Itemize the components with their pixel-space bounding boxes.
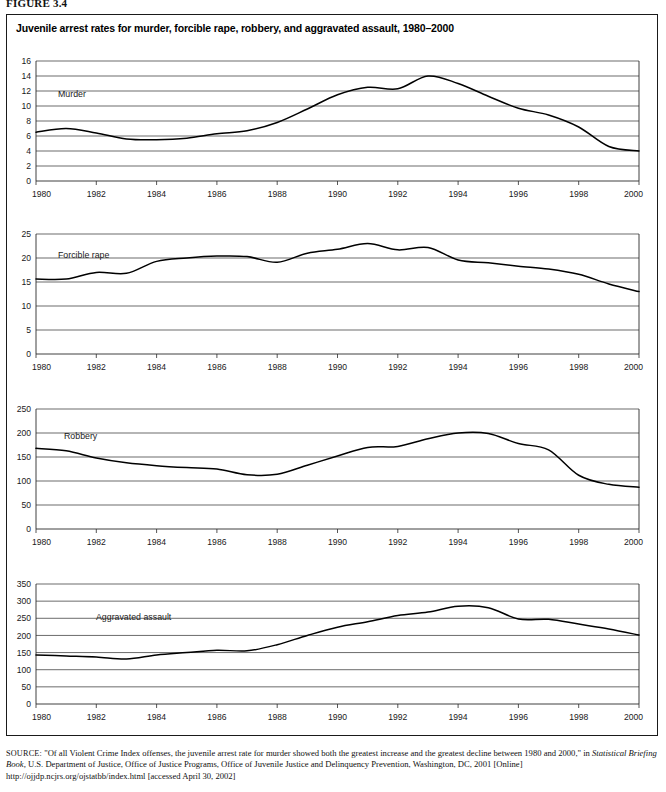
- figure-title: Juvenile arrest rates for murder, forcib…: [16, 22, 454, 34]
- x-tick-label-1980: 1980: [32, 537, 51, 547]
- y-tick-label-300: 300: [17, 596, 32, 606]
- x-tick-label-1994: 1994: [449, 537, 468, 547]
- y-tick-label-4: 4: [26, 146, 31, 156]
- x-tick-label-1980: 1980: [32, 712, 51, 722]
- y-tick-label-0: 0: [26, 524, 31, 534]
- y-tick-label-250: 250: [17, 613, 32, 623]
- source-line-2-post: U.S. Department of Justice, Office of Ju…: [26, 759, 411, 769]
- y-tick-label-150: 150: [17, 452, 32, 462]
- x-tick-label-1986: 1986: [207, 189, 226, 199]
- y-tick-label-10: 10: [21, 301, 31, 311]
- y-tick-label-0: 0: [26, 176, 31, 186]
- x-tick-label-2000: 2000: [624, 537, 643, 547]
- y-tick-label-10: 10: [21, 101, 31, 111]
- x-tick-label-2000: 2000: [624, 712, 643, 722]
- x-tick-label-1994: 1994: [449, 362, 468, 372]
- y-tick-label-5: 5: [26, 325, 31, 335]
- chart-forcible-rape: 0510152025198019821984198619881990199219…: [0, 228, 652, 386]
- x-tick-label-1998: 1998: [569, 712, 588, 722]
- source-line-2-pre: and 2000," in: [544, 748, 592, 758]
- grid-lines: [36, 409, 639, 529]
- chart-murder: 0246810121416198019821984198619881990199…: [0, 55, 652, 213]
- x-tick-label-1986: 1986: [207, 537, 226, 547]
- y-tick-label-250: 250: [17, 404, 32, 414]
- x-tick-label-1986: 1986: [207, 712, 226, 722]
- x-tick-label-1992: 1992: [388, 537, 407, 547]
- y-tick-label-0: 0: [26, 349, 31, 359]
- series-label-aggravated-assault: Aggravated assault: [96, 612, 172, 622]
- x-tick-label-1998: 1998: [569, 537, 588, 547]
- y-tick-label-14: 14: [21, 71, 31, 81]
- x-tick-label-2000: 2000: [624, 189, 643, 199]
- y-tick-label-16: 16: [21, 56, 31, 66]
- x-tick-label-1990: 1990: [328, 712, 347, 722]
- x-tick-label-2000: 2000: [624, 362, 643, 372]
- figure-number-label: FIGURE 3.4: [6, 0, 67, 9]
- x-tick-label-1988: 1988: [268, 189, 287, 199]
- x-tick-label-1994: 1994: [449, 712, 468, 722]
- y-tick-label-8: 8: [26, 116, 31, 126]
- x-tick-label-1988: 1988: [268, 362, 287, 372]
- x-tick-label-1982: 1982: [87, 712, 106, 722]
- x-tick-label-1994: 1994: [449, 189, 468, 199]
- x-tick-label-1984: 1984: [147, 712, 166, 722]
- data-line-murder: [36, 76, 639, 151]
- figure-page: FIGURE 3.4 Juvenile arrest rates for mur…: [0, 0, 666, 792]
- x-tick-label-1990: 1990: [328, 537, 347, 547]
- source-label: SOURCE:: [6, 749, 42, 758]
- x-tick-label-1980: 1980: [32, 362, 51, 372]
- chart-robbery: 0501001502002501980198219841986198819901…: [0, 403, 652, 561]
- x-tick-label-1992: 1992: [388, 712, 407, 722]
- x-tick-label-1982: 1982: [87, 362, 106, 372]
- x-tick-label-1988: 1988: [268, 537, 287, 547]
- x-tick-label-1982: 1982: [87, 537, 106, 547]
- y-tick-label-200: 200: [17, 428, 32, 438]
- chart-aggravated-assault: 0501001502002503003501980198219841986198…: [0, 578, 652, 736]
- x-tick-label-1992: 1992: [388, 362, 407, 372]
- x-tick-label-1982: 1982: [87, 189, 106, 199]
- y-tick-label-150: 150: [17, 648, 32, 658]
- y-tick-label-0: 0: [26, 699, 31, 709]
- series-label-forcible-rape: Forcible rape: [58, 250, 109, 260]
- data-line-robbery: [36, 432, 639, 487]
- chart-panel-aggravated-assault: 0501001502002503003501980198219841986198…: [0, 578, 652, 736]
- x-tick-label-1998: 1998: [569, 362, 588, 372]
- y-tick-label-50: 50: [21, 682, 31, 692]
- x-tick-label-1998: 1998: [569, 189, 588, 199]
- grid-lines: [36, 234, 639, 354]
- x-tick-label-1988: 1988: [268, 712, 287, 722]
- y-tick-label-25: 25: [21, 229, 31, 239]
- y-tick-label-20: 20: [21, 253, 31, 263]
- x-tick-label-1996: 1996: [509, 712, 528, 722]
- source-note: SOURCE: "Of all Violent Crime Index offe…: [6, 748, 658, 782]
- x-tick-label-1984: 1984: [147, 362, 166, 372]
- source-line-1: "Of all Violent Crime Index offenses, th…: [44, 748, 541, 758]
- x-tick-label-1984: 1984: [147, 189, 166, 199]
- x-tick-label-1996: 1996: [509, 189, 528, 199]
- y-tick-label-2: 2: [26, 161, 31, 171]
- y-tick-label-100: 100: [17, 665, 32, 675]
- x-tick-label-1996: 1996: [509, 537, 528, 547]
- x-tick-label-1992: 1992: [388, 189, 407, 199]
- x-tick-label-1980: 1980: [32, 189, 51, 199]
- y-tick-label-6: 6: [26, 131, 31, 141]
- x-tick-label-1986: 1986: [207, 362, 226, 372]
- data-line-forcible-rape: [36, 244, 639, 292]
- chart-panel-forcible-rape: 0510152025198019821984198619881990199219…: [0, 228, 652, 386]
- x-tick-label-1990: 1990: [328, 362, 347, 372]
- x-tick-label-1996: 1996: [509, 362, 528, 372]
- y-tick-label-15: 15: [21, 277, 31, 287]
- y-tick-label-200: 200: [17, 631, 32, 641]
- grid-lines: [36, 584, 639, 704]
- x-tick-label-1990: 1990: [328, 189, 347, 199]
- series-label-murder: Murder: [58, 89, 86, 99]
- grid-lines: [36, 61, 639, 181]
- y-tick-label-100: 100: [17, 476, 32, 486]
- y-tick-label-350: 350: [17, 579, 32, 589]
- chart-panel-robbery: 0501001502002501980198219841986198819901…: [0, 403, 652, 561]
- y-tick-label-50: 50: [21, 500, 31, 510]
- y-tick-label-12: 12: [21, 86, 31, 96]
- series-label-robbery: Robbery: [64, 431, 98, 441]
- chart-panel-murder: 0246810121416198019821984198619881990199…: [0, 55, 652, 213]
- x-tick-label-1984: 1984: [147, 537, 166, 547]
